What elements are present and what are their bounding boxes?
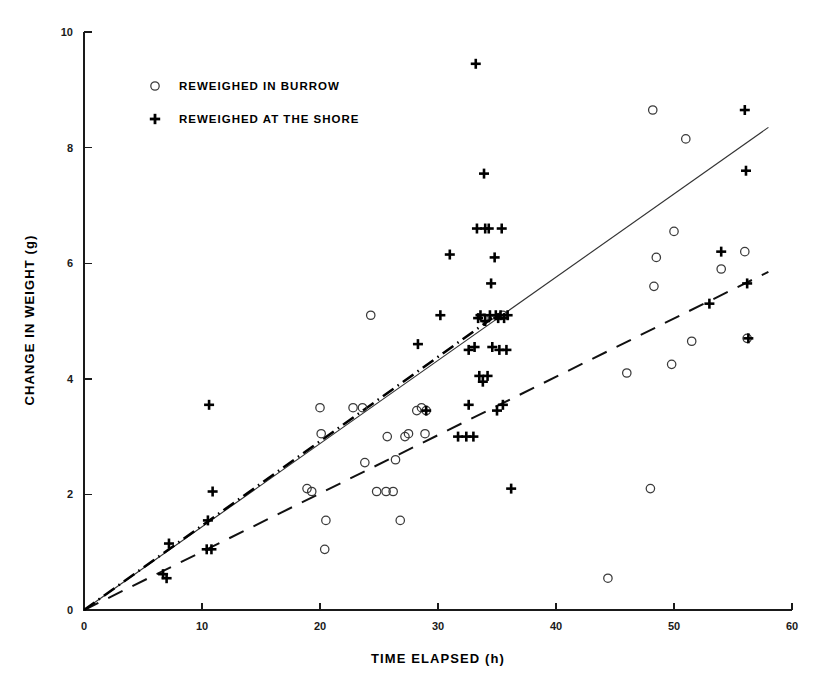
dashed-regression-line	[84, 272, 768, 610]
data-point-circle	[646, 484, 654, 492]
data-point-circle	[682, 135, 690, 143]
data-point-circle	[717, 265, 725, 273]
data-point-circle	[652, 253, 660, 261]
data-point-plus	[490, 252, 500, 262]
data-point-plus	[479, 169, 489, 179]
data-point-circle	[391, 456, 399, 464]
x-tick-label: 10	[196, 620, 208, 632]
data-point-plus	[492, 406, 502, 416]
data-point-plus	[421, 406, 431, 416]
fit-lines-group	[84, 127, 768, 610]
x-tick-label: 20	[314, 620, 326, 632]
data-point-plus	[204, 400, 214, 410]
data-point-plus	[435, 310, 445, 320]
x-axis-title: TIME ELAPSED (h)	[371, 651, 505, 666]
data-point-plus	[486, 278, 496, 288]
data-point-plus	[501, 345, 511, 355]
data-point-circle	[372, 487, 380, 495]
data-point-circle	[421, 430, 429, 438]
x-tick-label: 30	[432, 620, 444, 632]
data-point-circle	[321, 545, 329, 553]
data-point-circle	[349, 404, 357, 412]
y-tick-label: 0	[67, 604, 73, 616]
data-point-plus	[740, 105, 750, 115]
data-point-circle	[741, 247, 749, 255]
data-point-circle	[623, 369, 631, 377]
data-point-circle	[361, 458, 369, 466]
series-circle	[303, 106, 752, 583]
data-point-plus	[704, 299, 714, 309]
data-point-circle	[317, 430, 325, 438]
data-point-plus	[741, 166, 751, 176]
y-tick-label: 8	[67, 142, 73, 154]
legend-label: REWEIGHED AT THE SHORE	[179, 113, 359, 125]
data-point-circle	[670, 227, 678, 235]
data-point-circle	[650, 282, 658, 290]
data-point-plus	[506, 484, 516, 494]
y-tick-label: 10	[61, 26, 73, 38]
y-tick-label: 2	[67, 488, 73, 500]
data-point-circle	[367, 311, 375, 319]
data-point-plus	[471, 59, 481, 69]
legend-marker-circle	[151, 82, 159, 90]
data-point-plus	[445, 250, 455, 260]
data-point-circle	[688, 337, 696, 345]
data-point-circle	[604, 574, 612, 582]
y-tick-label: 4	[67, 373, 74, 385]
series-plus	[158, 59, 753, 583]
data-point-circle	[322, 516, 330, 524]
legend-group: REWEIGHED IN BURROWREWEIGHED AT THE SHOR…	[150, 80, 360, 125]
tick-labels-group: 01020304050600246810	[61, 26, 798, 632]
data-point-plus	[208, 487, 218, 497]
data-point-circle	[383, 432, 391, 440]
data-point-circle	[649, 106, 657, 114]
x-tick-label: 0	[81, 620, 87, 632]
y-tick-label: 6	[67, 257, 73, 269]
legend-label: REWEIGHED IN BURROW	[179, 80, 340, 92]
data-point-plus	[464, 400, 474, 410]
x-tick-label: 60	[786, 620, 798, 632]
data-points-group	[158, 59, 753, 583]
data-point-plus	[716, 247, 726, 257]
y-axis-title: CHANGE IN WEIGHT (g)	[22, 235, 37, 406]
chart-canvas: 01020304050600246810 REWEIGHED IN BURROW…	[0, 0, 824, 693]
data-point-circle	[667, 360, 675, 368]
scatter-plot-figure: 01020304050600246810 REWEIGHED IN BURROW…	[0, 0, 824, 693]
x-tick-label: 40	[550, 620, 562, 632]
dash-dot-line	[84, 318, 492, 610]
data-point-circle	[396, 516, 404, 524]
data-point-plus	[468, 432, 478, 442]
data-point-plus	[497, 224, 507, 234]
data-point-circle	[316, 404, 324, 412]
x-tick-label: 50	[668, 620, 680, 632]
data-point-plus	[413, 339, 423, 349]
